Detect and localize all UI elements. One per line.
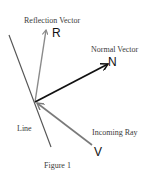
normal-vector-arrow (35, 64, 108, 102)
figure-caption: Figure 1 (44, 162, 71, 170)
incoming-symbol: V (94, 146, 102, 158)
normal-vector-label: Normal Vector (91, 46, 138, 54)
reflection-diagram: Reflection Vector R Normal Vector N Line… (0, 0, 148, 177)
normal-symbol: N (108, 56, 117, 68)
reflection-vector-arrow (35, 30, 46, 102)
line-label: Line (17, 125, 32, 133)
reflection-symbol: R (52, 27, 61, 39)
reflection-vector-label: Reflection Vector (24, 17, 80, 25)
diagram-canvas (0, 0, 148, 177)
incoming-ray-arrow (37, 103, 92, 145)
incoming-ray-label: Incoming Ray (92, 129, 138, 137)
